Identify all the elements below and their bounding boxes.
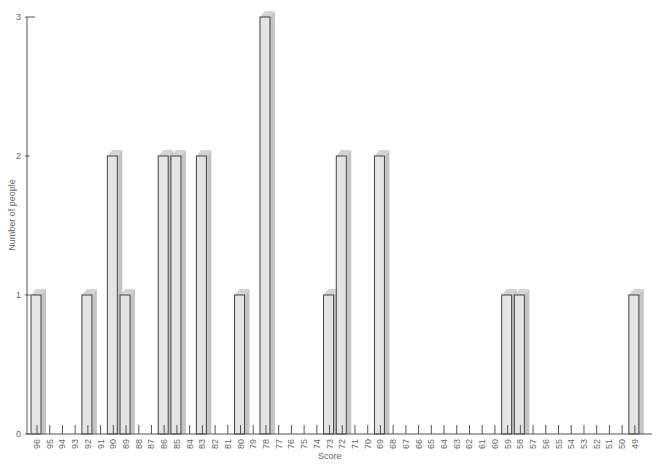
bar-shadow-side xyxy=(206,150,211,434)
x-tick-label: 57 xyxy=(528,439,538,449)
x-tick-label: 87 xyxy=(146,439,156,449)
bar xyxy=(235,295,245,434)
score-histogram-chart: 9695949392919089888786858483828180797877… xyxy=(0,0,657,464)
x-tick-label: 91 xyxy=(96,439,106,449)
bar-shadow-side xyxy=(384,150,389,434)
bar xyxy=(324,295,334,434)
x-tick-label: 96 xyxy=(32,439,42,449)
x-tick-label: 52 xyxy=(592,439,602,449)
x-tick-label: 73 xyxy=(325,439,335,449)
bar xyxy=(82,295,92,434)
x-tick-label: 66 xyxy=(414,439,424,449)
x-tick-label: 55 xyxy=(554,439,564,449)
x-tick-label: 65 xyxy=(426,439,436,449)
x-tick-label: 53 xyxy=(579,439,589,449)
x-tick-label: 77 xyxy=(274,439,284,449)
x-tick-label: 83 xyxy=(197,439,207,449)
x-tick-label: 78 xyxy=(261,439,271,449)
x-tick-label: 63 xyxy=(452,439,462,449)
x-tick-label: 90 xyxy=(108,439,118,449)
x-tick-label: 71 xyxy=(350,439,360,449)
bar xyxy=(158,156,168,434)
x-tick-label: 64 xyxy=(439,439,449,449)
x-tick-label: 95 xyxy=(45,439,55,449)
bar-shadow-side xyxy=(245,289,250,434)
x-tick-label: 85 xyxy=(172,439,182,449)
bar xyxy=(107,156,117,434)
x-tick-label: 49 xyxy=(630,439,640,449)
x-tick-label: 84 xyxy=(185,439,195,449)
bar xyxy=(629,295,639,434)
y-tick-label: 1 xyxy=(16,290,21,300)
bar-shadow-side xyxy=(41,289,46,434)
x-tick-label: 69 xyxy=(375,439,385,449)
x-tick-label: 79 xyxy=(248,439,258,449)
x-tick-label: 59 xyxy=(503,439,513,449)
x-tick-label: 51 xyxy=(604,439,614,449)
bar-shadow-side xyxy=(270,11,275,434)
bar xyxy=(171,156,181,434)
x-tick-label: 56 xyxy=(541,439,551,449)
x-tick-label: 62 xyxy=(464,439,474,449)
x-tick-label: 86 xyxy=(159,439,169,449)
x-tick-label: 58 xyxy=(515,439,525,449)
x-tick-label: 67 xyxy=(401,439,411,449)
x-tick-label: 81 xyxy=(223,439,233,449)
x-tick-label: 61 xyxy=(477,439,487,449)
bar-shadow-side xyxy=(92,289,97,434)
y-tick-label: 0 xyxy=(16,429,21,439)
x-tick-label: 80 xyxy=(236,439,246,449)
bar xyxy=(31,295,41,434)
x-axis-label: Score xyxy=(318,451,342,461)
x-tick-label: 54 xyxy=(566,439,576,449)
bar-shadow-side xyxy=(130,289,135,434)
x-tick-label: 72 xyxy=(337,439,347,449)
x-tick-label: 75 xyxy=(299,439,309,449)
chart-canvas: 9695949392919089888786858483828180797877… xyxy=(0,0,657,464)
x-tick-label: 74 xyxy=(312,439,322,449)
x-tick-label: 50 xyxy=(617,439,627,449)
bar xyxy=(260,17,270,434)
x-tick-label: 82 xyxy=(210,439,220,449)
x-tick-label: 93 xyxy=(70,439,80,449)
y-tick-label: 2 xyxy=(16,151,21,161)
bar xyxy=(336,156,346,434)
bar xyxy=(120,295,130,434)
x-tick-label: 70 xyxy=(363,439,373,449)
bar-shadow-side xyxy=(181,150,186,434)
y-axis-label: Number of people xyxy=(7,165,17,265)
x-tick-label: 94 xyxy=(57,439,67,449)
x-tick-label: 92 xyxy=(83,439,93,449)
bar xyxy=(374,156,384,434)
bar-shadow-side xyxy=(639,289,644,434)
y-tick-label: 3 xyxy=(16,12,21,22)
bar-shadow-side xyxy=(524,289,529,434)
bar xyxy=(514,295,524,434)
x-tick-label: 88 xyxy=(134,439,144,449)
bar-shadow-side xyxy=(346,150,351,434)
x-tick-label: 89 xyxy=(121,439,131,449)
x-tick-label: 76 xyxy=(286,439,296,449)
x-tick-label: 68 xyxy=(388,439,398,449)
bar xyxy=(196,156,206,434)
bar xyxy=(502,295,512,434)
x-tick-label: 60 xyxy=(490,439,500,449)
